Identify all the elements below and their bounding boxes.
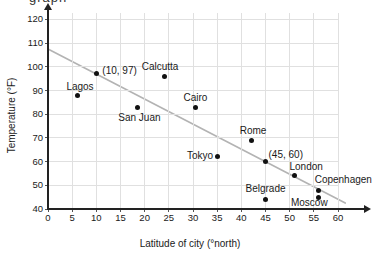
data-point-san-juan	[135, 105, 140, 110]
data-label-rome: Rome	[240, 126, 267, 136]
y-tick-label-50: 50	[13, 180, 43, 190]
y-tick-label-90: 90	[13, 86, 43, 96]
data-point-cairo	[193, 105, 198, 110]
line-of-fit	[48, 49, 345, 203]
x-tick-label-50: 50	[278, 213, 302, 223]
y-tick-label-40: 40	[13, 204, 43, 214]
scatter-plot-screen: graph 0510152025303540455055604050607080…	[0, 0, 375, 256]
data-point-calcutta	[162, 74, 167, 79]
y-gridline-120	[48, 19, 338, 20]
x-axis	[47, 208, 364, 210]
x-tick-label-35: 35	[205, 213, 229, 223]
data-point-lagos	[75, 93, 80, 98]
x-tick-label-55: 55	[302, 213, 326, 223]
data-label-san-juan: San Juan	[118, 113, 160, 123]
y-tick-label-110: 110	[13, 38, 43, 48]
data-label-tokyo: Tokyo	[187, 151, 213, 161]
y-axis	[47, 10, 49, 210]
data-label-copenhagen: Copenhagen	[315, 175, 372, 185]
y-gridline-50	[48, 185, 338, 186]
data-point-copenhagen	[316, 188, 321, 193]
data-point-rome	[249, 138, 254, 143]
y-tick-label-120: 120	[13, 14, 43, 24]
x-tick-label-5: 5	[60, 213, 84, 223]
x-tick-label-15: 15	[109, 213, 133, 223]
y-tick-label-80: 80	[13, 109, 43, 119]
x-tick-label-10: 10	[84, 213, 108, 223]
x-tick-label-45: 45	[254, 213, 278, 223]
data-label-lagos: Lagos	[66, 82, 93, 92]
x-axis-arrow-icon	[364, 205, 371, 213]
x-tick-label-25: 25	[157, 213, 181, 223]
data-label-cairo: Cairo	[183, 93, 207, 103]
y-tick-label-60: 60	[13, 157, 43, 167]
y-tick-label-70: 70	[13, 133, 43, 143]
y-gridline-80	[48, 114, 338, 115]
x-tick-label-20: 20	[133, 213, 157, 223]
x-tick-label-60: 60	[326, 213, 350, 223]
x-tick-label-0: 0	[36, 213, 60, 223]
y-tick-label-100: 100	[13, 62, 43, 72]
x-tick-label-30: 30	[181, 213, 205, 223]
x-axis-title: Latitude of city (°north)	[90, 238, 290, 249]
data-label-point-10-97: (10, 97)	[102, 66, 136, 76]
data-label-calcutta: Calcutta	[142, 62, 179, 72]
y-gridline-70	[48, 137, 338, 138]
data-label-point-45-60: (45, 60)	[269, 150, 303, 160]
y-axis-arrow-icon	[44, 3, 52, 10]
y-gridline-110	[48, 43, 338, 44]
data-label-belgrade: Belgrade	[245, 184, 285, 194]
y-gridline-100	[48, 66, 338, 67]
data-label-moscow: Moscow	[291, 198, 328, 208]
y-axis-title: Temperature (°F)	[6, 16, 17, 216]
data-label-london: London	[290, 162, 323, 172]
data-point-belgrade	[263, 197, 268, 202]
x-tick-label-40: 40	[229, 213, 253, 223]
